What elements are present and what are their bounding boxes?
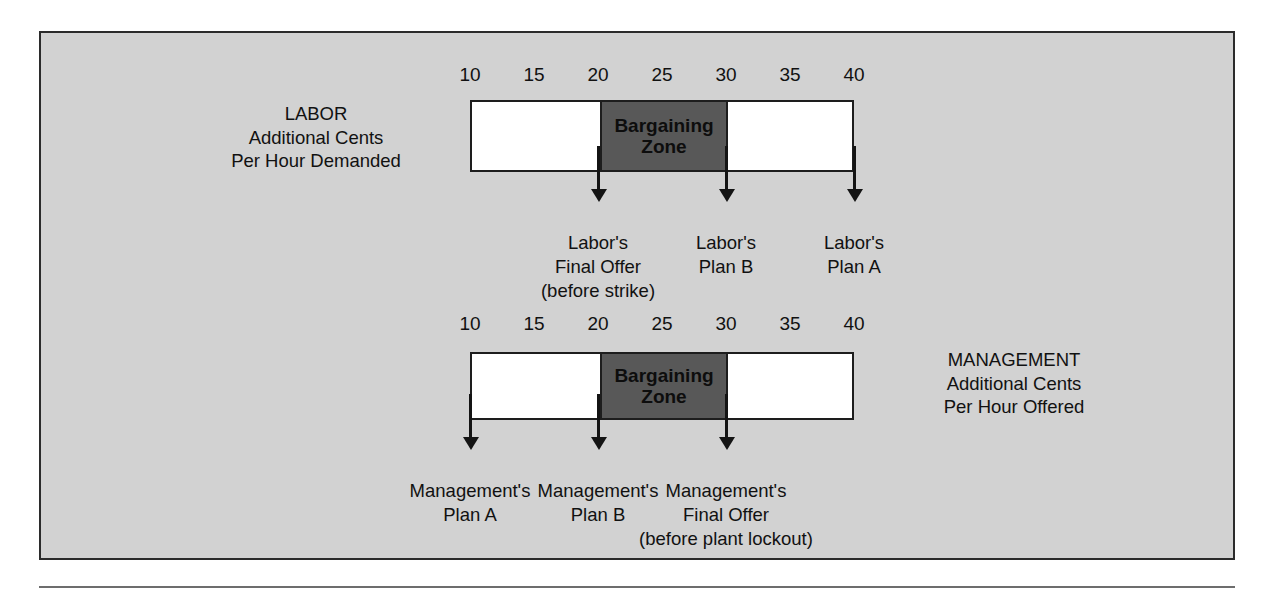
marker-arrow-labor-20: [597, 146, 600, 192]
bargaining-zone-label-labor: Bargaining Zone: [614, 115, 713, 158]
marker-arrow-management-20: [597, 394, 600, 440]
bargaining-zone-management: Bargaining Zone: [600, 354, 728, 418]
scale-tick-10: 10: [459, 63, 480, 87]
scale-tick-35: 35: [779, 63, 800, 87]
caption-labor: LABOR Additional Cents Per Hour Demanded: [186, 102, 446, 173]
marker-label-labor-20: Labor's Final Offer (before strike): [541, 231, 655, 303]
bar-management: Bargaining Zone: [470, 352, 854, 420]
bargaining-zone-label-management: Bargaining Zone: [614, 365, 713, 408]
marker-label-labor-30: Labor's Plan B: [696, 231, 756, 279]
scale-tick-20: 20: [587, 312, 608, 336]
scale-ticks-management: 10152025303540: [470, 312, 854, 336]
marker-label-labor-40: Labor's Plan A: [824, 231, 884, 279]
scale-tick-15: 15: [523, 312, 544, 336]
marker-arrow-management-30: [725, 394, 728, 440]
scale-tick-40: 40: [843, 63, 864, 87]
scale-tick-30: 30: [715, 312, 736, 336]
scale-tick-25: 25: [651, 312, 672, 336]
scale-tick-25: 25: [651, 63, 672, 87]
bar-labor: Bargaining Zone: [470, 100, 854, 172]
scale-tick-15: 15: [523, 63, 544, 87]
bargaining-zone-labor: Bargaining Zone: [600, 102, 728, 170]
scale-tick-20: 20: [587, 63, 608, 87]
diagram-canvas: 10152025303540 LABOR Additional Cents Pe…: [0, 0, 1266, 595]
scale-tick-35: 35: [779, 312, 800, 336]
marker-arrow-management-10: [469, 394, 472, 440]
marker-label-management-10: Management's Plan A: [410, 479, 531, 527]
caption-management: MANAGEMENT Additional Cents Per Hour Off…: [874, 348, 1154, 419]
marker-arrow-labor-40: [853, 146, 856, 192]
scale-tick-10: 10: [459, 312, 480, 336]
diagram-frame: 10152025303540 LABOR Additional Cents Pe…: [39, 31, 1235, 560]
scale-ticks-labor: 10152025303540: [470, 63, 854, 87]
scale-tick-40: 40: [843, 312, 864, 336]
bottom-divider: [39, 586, 1235, 588]
marker-arrow-labor-30: [725, 146, 728, 192]
marker-label-management-30: Management's Final Offer (before plant l…: [639, 479, 813, 551]
scale-tick-30: 30: [715, 63, 736, 87]
